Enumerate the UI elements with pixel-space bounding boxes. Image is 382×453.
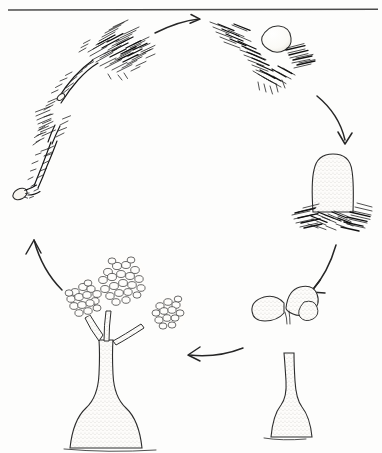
sporangiophore-trunk xyxy=(70,340,142,448)
stalk-lobe-left xyxy=(252,296,284,321)
primordium-knob xyxy=(262,26,292,52)
stage-branching-stalk xyxy=(252,286,318,439)
arrow-top xyxy=(155,15,200,34)
branch-left xyxy=(85,315,103,341)
arrow-right-upper xyxy=(317,96,352,144)
top-rule xyxy=(8,9,378,10)
stage-sporangiophore xyxy=(64,254,187,451)
stage-germinating-spore xyxy=(11,184,40,202)
arrow-left xyxy=(26,240,62,290)
spore-body xyxy=(11,186,29,202)
stage-mycelium-strand xyxy=(28,60,98,188)
spore-head-center xyxy=(98,254,146,305)
arrow-right-lower xyxy=(311,245,336,293)
column-body xyxy=(312,154,353,212)
branch-center xyxy=(104,311,111,341)
arrow-bottom xyxy=(188,347,243,361)
germ-tube xyxy=(26,184,40,198)
stage-primordium-column xyxy=(292,154,372,231)
spore-head-right xyxy=(151,294,187,330)
stage-knot-initial xyxy=(210,22,315,94)
stage-hyphal-mass xyxy=(79,20,155,80)
branch-right xyxy=(113,324,144,345)
spore-head-left xyxy=(65,278,104,316)
life-cycle-canvas xyxy=(0,0,382,453)
hyphal-septum xyxy=(56,92,66,101)
life-cycle-figure: Fungal life cycle diagram Germinating sp… xyxy=(0,0,382,453)
stalk-body xyxy=(271,353,312,437)
